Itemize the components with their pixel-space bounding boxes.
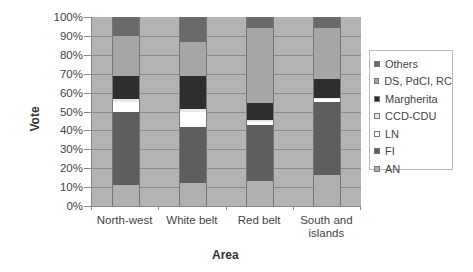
x-tick-mark	[91, 206, 92, 210]
y-tick-mark	[84, 206, 91, 207]
legend-swatch-icon	[374, 166, 380, 172]
bar-segment-ccd-cdu	[112, 99, 140, 102]
legend: OthersDS, PdCI, RCMargheritaCCD-CDULNFIA…	[369, 50, 453, 170]
y-tick-label: 60%	[60, 87, 83, 99]
legend-item: DS, PdCI, RC	[374, 73, 452, 91]
x-tick-mark	[158, 206, 159, 210]
bar-red-belt	[246, 17, 274, 206]
bar-segment-ds-pdci-rc	[246, 28, 274, 103]
legend-swatch-icon	[374, 131, 380, 137]
bar-segment-an	[313, 175, 341, 206]
bar-south-and-islands	[313, 17, 341, 206]
bar-segment-ln	[246, 122, 274, 125]
y-tick-mark	[84, 74, 91, 75]
y-tick-label: 40%	[60, 124, 83, 136]
y-tick-label: 0%	[66, 200, 83, 212]
bar-segment-ds-pdci-rc	[179, 42, 207, 76]
bar-segment-fi	[179, 127, 207, 184]
legend-item: CCD-CDU	[374, 108, 452, 126]
y-tick-mark	[84, 93, 91, 94]
legend-item: Others	[374, 55, 452, 73]
legend-label: DS, PdCI, RC	[384, 75, 452, 87]
bar-segment-an	[112, 185, 140, 206]
y-tick-mark	[84, 149, 91, 150]
legend-item: FI	[374, 143, 452, 161]
bar-segment-ds-pdci-rc	[313, 28, 341, 79]
y-tick-mark	[84, 130, 91, 131]
bar-segment-ln	[112, 102, 140, 111]
legend-label: CCD-CDU	[385, 110, 436, 122]
bar-segment-margherita	[112, 76, 140, 100]
bar-segment-margherita	[246, 103, 274, 120]
y-tick-mark	[84, 168, 91, 169]
y-tick-label: 10%	[60, 181, 83, 193]
bar-segment-others	[112, 17, 140, 36]
bar-segment-fi	[246, 125, 274, 182]
legend-label: LN	[385, 128, 399, 140]
bar-segment-ccd-cdu	[179, 109, 207, 112]
legend-swatch-icon	[374, 78, 379, 84]
legend-label: Others	[385, 58, 418, 70]
y-axis-title: Vote	[28, 106, 42, 131]
y-tick-label: 100%	[54, 11, 83, 23]
x-tick-label: South andislands	[286, 214, 366, 240]
bar-segment-others	[246, 17, 274, 28]
bar-segment-ccd-cdu	[246, 120, 274, 122]
y-tick-mark	[84, 112, 91, 113]
y-tick-mark	[84, 55, 91, 56]
legend-swatch-icon	[374, 148, 380, 154]
bar-segment-fi	[112, 112, 140, 186]
bar-north-west	[112, 17, 140, 206]
legend-swatch-icon	[374, 113, 380, 119]
bar-segment-margherita	[179, 76, 207, 109]
y-tick-label: 30%	[60, 143, 83, 155]
bar-segment-others	[313, 17, 341, 28]
bar-segment-ln	[313, 99, 341, 102]
bar-segment-ds-pdci-rc	[112, 36, 140, 76]
plot-area	[91, 17, 361, 206]
x-tick-mark	[226, 206, 227, 210]
bar-segment-margherita	[313, 79, 341, 98]
y-tick-label: 80%	[60, 49, 83, 61]
y-tick-label: 90%	[60, 30, 83, 42]
legend-label: AN	[385, 163, 400, 175]
legend-item: AN	[374, 160, 452, 178]
y-tick-label: 50%	[60, 106, 83, 118]
bar-segment-ccd-cdu	[313, 98, 341, 99]
x-tick-mark	[293, 206, 294, 210]
bar-segment-ln	[179, 112, 207, 127]
x-axis-title: Area	[212, 248, 239, 262]
bar-white-belt	[179, 17, 207, 206]
bar-segment-an	[179, 183, 207, 206]
legend-item: Margherita	[374, 90, 452, 108]
bar-segment-others	[179, 17, 207, 42]
x-tick-mark	[360, 206, 361, 210]
y-tick-mark	[84, 36, 91, 37]
y-tick-mark	[84, 187, 91, 188]
y-tick-label: 20%	[60, 162, 83, 174]
legend-item: LN	[374, 125, 452, 143]
bar-segment-an	[246, 181, 274, 206]
legend-label: Margherita	[385, 93, 438, 105]
legend-swatch-icon	[374, 96, 380, 102]
bar-segment-fi	[313, 102, 341, 175]
y-tick-label: 70%	[60, 68, 83, 80]
y-tick-mark	[84, 17, 91, 18]
legend-swatch-icon	[374, 61, 380, 67]
legend-label: FI	[385, 145, 395, 157]
